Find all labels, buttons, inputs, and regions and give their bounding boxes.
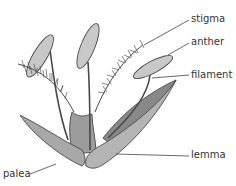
filament-left — [50, 50, 68, 140]
grass-flower-diagram: stigma anther filament lemma palea — [0, 0, 236, 186]
leader-palea — [30, 164, 56, 174]
leader-filament — [152, 75, 189, 78]
bract-back-right — [103, 80, 176, 146]
leader-stigma — [144, 20, 189, 45]
label-anther: anther — [191, 36, 224, 48]
label-filament: filament — [191, 69, 232, 81]
leader-anther — [168, 43, 189, 55]
label-stigma: stigma — [191, 13, 225, 25]
label-palea: palea — [3, 168, 31, 180]
leader-lemma — [116, 154, 189, 156]
label-lemma: lemma — [191, 149, 226, 161]
